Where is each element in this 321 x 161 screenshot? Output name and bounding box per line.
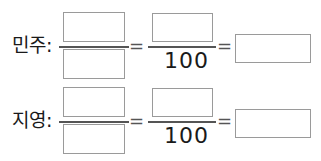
fraction1-denominator-box[interactable] <box>63 124 125 154</box>
row-label: 지영: <box>12 109 52 131</box>
answer-box[interactable] <box>235 109 311 138</box>
fraction1-bar <box>59 46 129 48</box>
fraction2-denominator: 100 <box>164 50 209 72</box>
row-minju: 민주: = 100 = <box>0 0 321 80</box>
fraction2-numerator-box[interactable] <box>152 88 213 117</box>
answer-box[interactable] <box>235 34 311 63</box>
fraction1-numerator-box[interactable] <box>63 12 125 42</box>
row-jiyoung: 지영: = 100 = <box>0 75 321 155</box>
fraction1-bar <box>59 121 129 123</box>
equals-sign: = <box>129 37 144 55</box>
fraction2-denominator: 100 <box>164 125 209 147</box>
fraction2-numerator-box[interactable] <box>152 13 213 42</box>
equals-sign: = <box>217 37 232 55</box>
fraction1-numerator-box[interactable] <box>63 87 125 117</box>
row-label: 민주: <box>12 34 52 56</box>
equals-sign: = <box>217 112 232 130</box>
equals-sign: = <box>129 112 144 130</box>
